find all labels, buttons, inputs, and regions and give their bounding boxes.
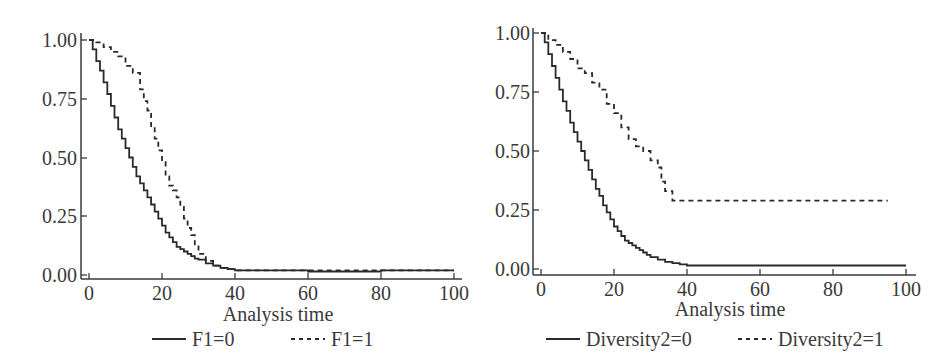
chart-panel-diversity2: 1.00 0.75 0.50 0.25 0.00 0 20 40 60 80 1… [476,0,952,363]
x-tick-label: 0 [536,278,546,300]
plot-area [541,33,906,266]
y-tick-label: 0.00 [495,258,530,280]
y-tick-label: 0.50 [42,147,77,169]
y-tick-label: 1.00 [495,22,530,44]
y-tick-label: 0.75 [495,81,530,103]
x-tick-label: 40 [225,282,245,304]
x-tick-label: 0 [84,282,94,304]
legend-label: F1=0 [192,328,234,350]
x-tick-label: 80 [823,278,843,300]
legend: Diversity2=0 Diversity2=1 [546,328,884,351]
x-axis: 0 20 40 60 80 100 Analysis time [533,269,921,321]
series-line-diversity2-0 [541,33,906,266]
x-axis-title: Analysis time [675,298,786,321]
y-axis: 1.00 0.75 0.50 0.25 0.00 [42,29,87,286]
plot-area [89,40,454,272]
legend-label: Diversity2=1 [778,328,884,351]
x-tick-label: 80 [371,282,391,304]
y-axis: 1.00 0.75 0.50 0.25 0.00 [495,22,539,280]
x-tick-label: 100 [439,282,469,304]
y-tick-label: 0.25 [495,199,530,221]
x-tick-label: 60 [298,282,318,304]
series-line-f1-0 [89,40,454,272]
legend-label: Diversity2=0 [586,328,692,351]
x-axis: 0 20 40 60 80 100 Analysis time [81,273,469,326]
chart-svg-diversity2: 1.00 0.75 0.50 0.25 0.00 0 20 40 60 80 1… [476,0,952,363]
x-tick-label: 40 [677,278,697,300]
series-line-diversity2-1 [541,33,888,201]
y-tick-label: 0.00 [42,264,77,286]
y-tick-label: 0.75 [42,88,77,110]
chart-panel-f1: 1.00 0.75 0.50 0.25 0.00 0 20 40 60 80 1… [0,0,476,363]
x-tick-label: 60 [750,278,770,300]
y-tick-label: 0.25 [42,205,77,227]
x-tick-label: 20 [152,282,172,304]
x-axis-title: Analysis time [223,303,334,326]
y-tick-label: 1.00 [42,29,77,51]
y-tick-label: 0.50 [495,140,530,162]
x-tick-label: 20 [604,278,624,300]
legend: F1=0 F1=1 [152,328,373,350]
chart-svg-f1: 1.00 0.75 0.50 0.25 0.00 0 20 40 60 80 1… [0,0,476,363]
legend-label: F1=1 [331,328,373,350]
series-line-f1-1 [89,40,454,270]
x-tick-label: 100 [891,278,921,300]
